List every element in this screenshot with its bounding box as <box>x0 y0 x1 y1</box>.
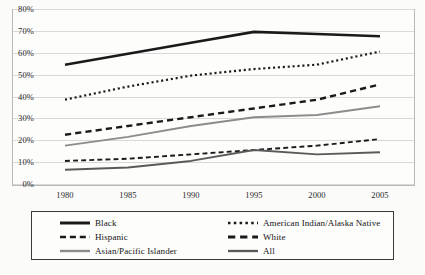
legend-item[interactable]: Asian/Pacific Islander <box>60 244 177 258</box>
legend-item[interactable]: Black <box>60 216 117 230</box>
legend-swatch-icon <box>228 245 258 257</box>
chart-canvas: 0%10%20%30%40%50%60%70%80% 1980198519901… <box>0 0 425 275</box>
series-line-american-indian-alaska-native <box>65 52 380 100</box>
legend-label: Black <box>95 218 117 228</box>
legend-label: White <box>263 232 286 242</box>
legend-swatch-icon <box>60 231 90 243</box>
series-line-hispanic <box>65 139 380 161</box>
legend-item[interactable]: American Indian/Alaska Native <box>228 216 380 230</box>
legend-swatch-icon <box>228 217 258 229</box>
legend-swatch-icon <box>60 217 90 229</box>
series-line-black <box>65 32 380 65</box>
chart-legend: BlackHispanicAsian/Pacific IslanderAmeri… <box>31 211 394 260</box>
legend-item[interactable]: Hispanic <box>60 230 128 244</box>
legend-swatch-icon <box>60 245 90 257</box>
series-line-white <box>65 84 380 134</box>
legend-swatch-icon <box>228 231 258 243</box>
legend-item[interactable]: White <box>228 230 286 244</box>
legend-item[interactable]: All <box>228 244 275 258</box>
legend-label: Hispanic <box>95 232 128 242</box>
legend-label: American Indian/Alaska Native <box>263 218 380 228</box>
legend-label: All <box>263 246 275 256</box>
legend-label: Asian/Pacific Islander <box>95 246 177 256</box>
